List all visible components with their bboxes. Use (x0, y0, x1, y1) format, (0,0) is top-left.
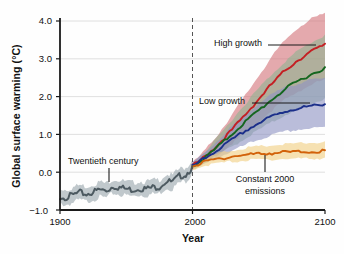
y-tick-label: 2.0 (22, 91, 52, 102)
annotation-constant-2000-emissions-line2: emissions (222, 186, 308, 197)
y-tick-label: 1.0 (22, 129, 52, 140)
y-axis-title: Global surface warming (°C) (10, 16, 22, 216)
x-tick-label: 2100 (300, 216, 344, 227)
y-tick-label: −1.0 (18, 205, 48, 216)
x-axis-title: Year (60, 232, 326, 244)
x-tick-label: 2000 (170, 216, 220, 227)
annotation-low-growth: Low growth (199, 96, 245, 107)
y-tick-label: 0.0 (22, 167, 52, 178)
annotation-high-growth: High growth (214, 38, 262, 49)
x-tick-label: 1900 (35, 216, 85, 227)
y-tick-label: 3.0 (22, 53, 52, 64)
annotation-constant-2000-emissions-line1: Constant 2000 (222, 174, 308, 185)
y-tick-label: 4.0 (22, 15, 52, 26)
annotation-twentieth-century: Twentieth century (68, 156, 139, 167)
climate-projection-figure: Global surface warming (°C) Year 4.0 3.0… (0, 0, 344, 254)
